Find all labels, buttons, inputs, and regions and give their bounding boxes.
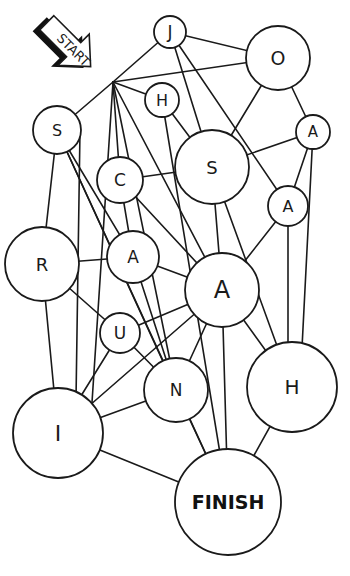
node-letter: I xyxy=(55,421,62,446)
node-letter: A xyxy=(214,276,231,304)
node-letter: O xyxy=(271,47,286,69)
node-letter: A xyxy=(283,197,294,216)
finish-label: FINISH xyxy=(192,491,265,513)
letter-node-a3[interactable]: A xyxy=(107,231,159,283)
node-letter: H xyxy=(156,91,168,110)
node-letter: J xyxy=(166,22,172,42)
node-letter: A xyxy=(127,247,139,267)
letter-node-h2[interactable]: H xyxy=(247,342,337,432)
maze-canvas: START JOHSACSARAAUNHI FINISH xyxy=(0,0,350,576)
letter-node-a2[interactable]: A xyxy=(268,186,308,226)
letter-node-o[interactable]: O xyxy=(246,26,310,90)
node-letter: U xyxy=(114,323,126,343)
node-letter: N xyxy=(170,380,183,400)
node-letter: A xyxy=(308,123,319,141)
node-letter: R xyxy=(36,254,49,275)
letter-node-h1[interactable]: H xyxy=(145,83,179,117)
finish-node[interactable]: FINISH xyxy=(175,449,281,555)
letter-node-a1[interactable]: A xyxy=(296,115,330,149)
letter-node-n[interactable]: N xyxy=(144,358,208,422)
maze-diagram: START JOHSACSARAAUNHI FINISH xyxy=(0,0,350,576)
node-letter: C xyxy=(114,170,126,190)
letter-node-r[interactable]: R xyxy=(5,227,79,301)
letter-node-u[interactable]: U xyxy=(100,313,140,353)
start-arrow[interactable]: START xyxy=(24,4,106,86)
letter-node-j[interactable]: J xyxy=(154,16,186,48)
node-letter: H xyxy=(284,375,299,399)
letter-node-s2[interactable]: S xyxy=(175,130,249,204)
letter-node-i[interactable]: I xyxy=(13,388,103,478)
letter-node-s1[interactable]: S xyxy=(33,106,81,154)
node-letter: S xyxy=(206,157,217,178)
letter-node-a4[interactable]: A xyxy=(185,253,259,327)
letter-node-c[interactable]: C xyxy=(97,157,143,203)
node-letter: S xyxy=(52,121,62,140)
